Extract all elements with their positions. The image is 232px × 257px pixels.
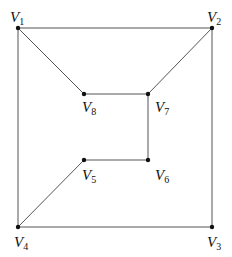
vertex-V4 [16, 225, 20, 229]
vertex-V8 [82, 92, 86, 96]
label-V7: V7 [155, 99, 169, 117]
edge-V1-V8 [18, 28, 84, 94]
edge-V5-V4 [18, 160, 84, 227]
label-V1: V1 [10, 9, 24, 27]
vertex-V2 [210, 26, 214, 30]
vertex-labels: V1V2V3V4V5V6V7V8 [10, 9, 221, 252]
graph-diagram: V1V2V3V4V5V6V7V8 [0, 0, 232, 257]
edges [18, 28, 212, 227]
label-V4: V4 [14, 234, 28, 252]
vertex-V7 [146, 92, 150, 96]
label-V6: V6 [155, 167, 169, 185]
vertex-V5 [82, 158, 86, 162]
vertex-V6 [146, 158, 150, 162]
label-V5: V5 [82, 167, 96, 185]
edge-V7-V2 [148, 28, 212, 94]
label-V3: V3 [207, 234, 221, 252]
label-V8: V8 [82, 99, 96, 117]
label-V2: V2 [207, 9, 221, 27]
vertex-V3 [210, 225, 214, 229]
